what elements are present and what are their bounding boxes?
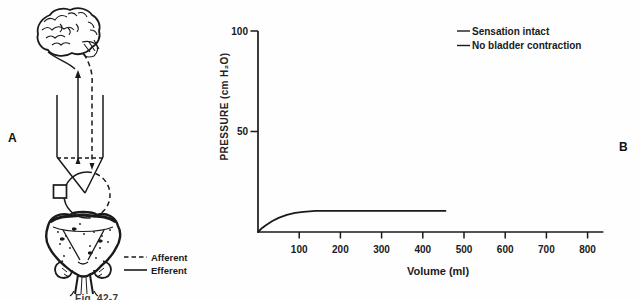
panel-a-label: A <box>8 131 17 145</box>
afferent-legend-label: Afferent <box>151 252 188 263</box>
panel-a-anatomy-diagram: Afferent Efferent <box>0 0 215 300</box>
figure-42-7: Afferent Efferent 5010010020030040050060… <box>0 0 640 300</box>
up-arrowhead-icon <box>75 70 81 78</box>
urethra-inner <box>81 277 87 294</box>
x-tick-label: 200 <box>332 244 349 255</box>
x-tick-label: 100 <box>291 244 308 255</box>
x-tick-label: 400 <box>414 244 431 255</box>
chart-legend-label: Sensation intact <box>472 26 550 37</box>
x-axis-title: Volume (ml) <box>407 265 469 277</box>
y-tick-label: 100 <box>231 26 248 37</box>
bladder-illustration <box>46 212 120 296</box>
afferent-fiber-dashed <box>84 54 92 162</box>
x-tick-label: 500 <box>456 244 473 255</box>
trigone-funnel <box>63 230 104 264</box>
lesion-site-marker <box>54 185 67 198</box>
reflex-circle-dashed-arc <box>87 172 110 218</box>
panel-b-cystometrogram-chart: 50100100200300400500600700800Volume (ml)… <box>215 0 640 300</box>
panel-b-label: B <box>619 140 628 154</box>
x-tick-label: 800 <box>579 244 596 255</box>
bladder-outline <box>46 212 120 277</box>
chart-legend-label: No bladder contraction <box>472 40 581 51</box>
down-arrowhead-icon <box>90 163 95 170</box>
efferent-legend-label: Efferent <box>151 265 188 276</box>
diagram-legend: Afferent Efferent <box>124 252 188 276</box>
y-axis-title: PRESSURE (cm H₂O) <box>219 41 230 173</box>
bladder-dome-rim <box>50 215 116 222</box>
axes <box>258 31 603 232</box>
brain-illustration <box>38 8 100 57</box>
brain-gyri-texture <box>42 13 99 58</box>
urethra-outline <box>75 275 93 294</box>
bladder-stipple-texture <box>57 223 111 259</box>
spinal-cord-pathway <box>48 52 103 193</box>
y-tick-label: 50 <box>237 126 249 137</box>
x-tick-label: 700 <box>538 244 555 255</box>
x-tick-label: 600 <box>497 244 514 255</box>
x-tick-label: 300 <box>373 244 390 255</box>
figure-caption-clipped: Fig. 42-7. <box>75 293 545 300</box>
cystometrogram-curve <box>258 211 445 232</box>
